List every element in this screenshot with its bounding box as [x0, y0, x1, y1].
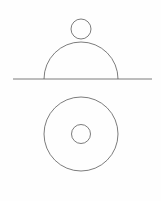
plan-inner-circle [72, 125, 91, 144]
plan-top-view [44, 97, 118, 171]
dome-arc [44, 42, 118, 79]
apex-knob-circle [71, 19, 91, 39]
technical-drawing-canvas [0, 0, 161, 201]
plan-outer-circle [44, 97, 118, 171]
front-elevation-view [13, 19, 152, 79]
orthographic-drawing-svg [0, 0, 161, 201]
